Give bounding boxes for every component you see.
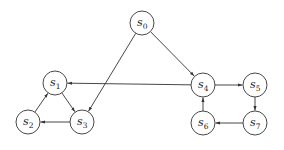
edge-s0-to-s3 (88, 33, 135, 111)
edge-s0-to-s4 (150, 32, 194, 77)
node-s0: s0 (130, 11, 154, 35)
node-s4: s4 (191, 73, 215, 97)
node-s5: s5 (243, 73, 267, 97)
node-s1: s1 (43, 71, 67, 95)
node-s7: s7 (243, 111, 267, 135)
edges-layer (35, 32, 255, 123)
edge-s2-to-s1 (35, 93, 48, 112)
nodes-layer: s0s1s2s3s4s5s6s7 (16, 11, 267, 135)
node-s3: s3 (70, 110, 94, 134)
graph-canvas: s0s1s2s3s4s5s6s7 (0, 0, 284, 150)
node-s6: s6 (191, 111, 215, 135)
edge-s4-to-s1 (67, 83, 191, 85)
edge-s1-to-s3 (62, 93, 75, 112)
node-s2: s2 (16, 110, 40, 134)
